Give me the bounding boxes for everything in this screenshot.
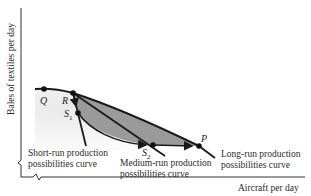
- long-run-label: Long-run production possibilities curve: [221, 149, 300, 170]
- medium-run-label: Medium-run production possibilities curv…: [120, 158, 212, 179]
- point-p: [196, 143, 202, 149]
- short-run-label: Short-run production possibilities curve: [28, 148, 108, 169]
- label-p: P: [201, 133, 207, 144]
- label-s1: S1: [64, 108, 73, 122]
- point-q: [41, 86, 47, 92]
- point-s1: [75, 110, 81, 116]
- point-r: [70, 90, 76, 96]
- adjustment-path-s2-p: [153, 145, 192, 146]
- label-q: Q: [40, 95, 47, 106]
- y-axis-label: Bales of textiles per day: [6, 14, 16, 124]
- label-r: R: [62, 95, 68, 106]
- point-s2: [150, 142, 156, 148]
- x-axis-label: Aircraft per day: [238, 183, 299, 194]
